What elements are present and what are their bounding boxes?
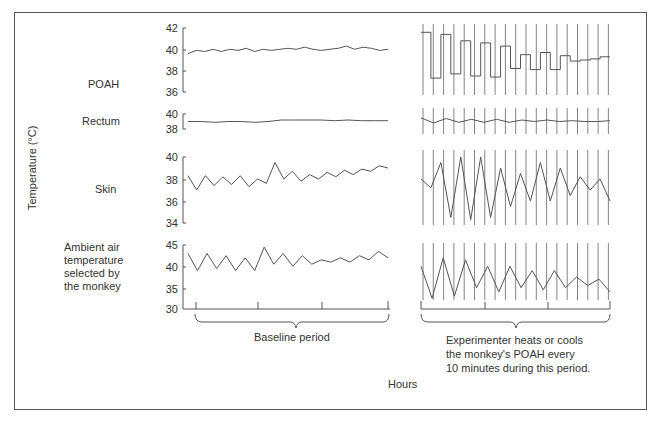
experiment-period-label: Experimenter heats or cools the monkey's… (446, 333, 590, 375)
experiment-label-line2: the monkey's POAH every (446, 347, 590, 361)
experiment-label-line1: Experimenter heats or cools (446, 333, 590, 347)
trace-line (188, 247, 388, 271)
y-axes (183, 28, 610, 328)
trace-line (188, 46, 388, 54)
trace-line (188, 163, 388, 191)
trace-line (188, 120, 388, 122)
experiment-label-line3: 10 minutes during this period. (446, 361, 590, 375)
x-axis-label: Hours (388, 377, 417, 391)
baseline-period-label: Baseline period (254, 330, 330, 344)
